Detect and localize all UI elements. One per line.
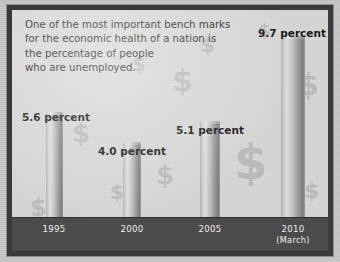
bar-value-label: 5.6 percent <box>22 111 90 123</box>
caption-block: One of the most important bench marks fo… <box>25 18 257 76</box>
axis-tick-sublabel: (March) <box>263 235 323 246</box>
bar-group[interactable] <box>200 123 220 218</box>
axis-tick-2000: 2000 <box>102 224 162 235</box>
chart-canvas: $$$$$$$$$$$ One of the most important be… <box>12 10 328 251</box>
axis-tick-label: 2005 <box>198 224 221 234</box>
axis-tick-1995: 1995 <box>24 224 84 235</box>
bar-2010[interactable] <box>281 38 305 218</box>
caption-line: who are unemployed. <box>25 61 257 75</box>
bar-2005[interactable] <box>200 123 220 218</box>
axis-tick-label: 1995 <box>42 224 65 234</box>
bar-value-label: 4.0 percent <box>98 145 166 157</box>
caption-line: One of the most important bench marks <box>25 18 257 32</box>
axis-tick-2010: 2010(March) <box>263 224 323 246</box>
axis-tick-2005: 2005 <box>180 224 240 235</box>
infographic-root: $$$$$$$$$$$ One of the most important be… <box>0 0 340 262</box>
bar-1995[interactable] <box>46 114 63 218</box>
bar-value-label: 5.1 percent <box>176 124 244 136</box>
caption-line: the percentage of people <box>25 47 257 61</box>
chart-frame: $$$$$$$$$$$ One of the most important be… <box>7 5 333 256</box>
axis-tick-label: 2010 <box>281 224 304 234</box>
bar-group[interactable] <box>281 38 305 218</box>
caption-line: for the economic health of a nation is <box>25 32 257 46</box>
bar-value-label: 9.7 percent <box>258 27 326 39</box>
x-axis-band: 1995200020052010(March) <box>12 217 328 251</box>
axis-tick-label: 2000 <box>120 224 143 234</box>
bar-group[interactable] <box>46 114 63 218</box>
